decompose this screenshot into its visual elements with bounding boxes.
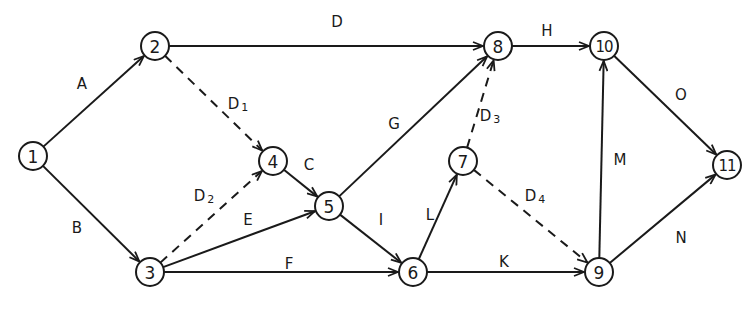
node-8: 8 [484,32,512,60]
node-label: 8 [493,37,504,57]
edge-label-7-8: D3 [480,107,501,126]
node-9: 9 [585,258,613,286]
edge-label-subscript: 1 [241,101,248,114]
node-4: 4 [259,147,287,175]
edge-label-1-3: B [72,219,82,237]
node-label: 6 [408,263,419,283]
edge-6-7 [419,175,457,260]
node-5: 5 [315,192,343,220]
node-label: 4 [268,152,279,172]
node-2: 2 [141,32,169,60]
node-label: 1 [28,147,39,167]
edge-label-10-11: O [675,86,687,104]
edge-label-1-2: A [77,75,88,93]
edge-7-9 [474,170,588,263]
edge-label-3-6: F [285,255,294,273]
node-label: 2 [150,37,161,57]
edge-label-7-9: D4 [525,187,546,206]
edge-label-subscript: 3 [493,113,500,126]
edge-label-5-8: G [388,115,400,133]
edge-label-6-7: L [426,206,435,224]
edge-1-2 [43,56,143,147]
node-label: 7 [458,152,469,172]
node-11: 11 [713,151,741,179]
edge-7-8 [467,60,494,147]
node-label: 10 [595,38,613,56]
edge-label-9-10: M [614,151,627,169]
edge-label-subscript: 4 [538,193,545,206]
node-6: 6 [399,258,427,286]
node-10: 10 [590,32,618,60]
node-label: 11 [718,157,736,175]
edge-label-4-5: C [304,156,314,174]
network-diagram: ABDD1D2CEFGID3LD4KHMON 1234567891011 [0,0,756,313]
edge-9-10 [599,61,603,258]
node-label: 5 [324,197,335,217]
edge-label-2-8: D [331,13,343,31]
node-label: 3 [145,263,156,283]
edge-label-2-4: D1 [228,95,249,114]
edge-10-11 [614,56,716,155]
edge-label-3-4: D2 [194,187,215,206]
edge-9-11 [610,175,716,263]
edge-label-5-6: I [379,211,383,229]
edge-label-6-9: K [499,253,510,271]
node-3: 3 [136,258,164,286]
edge-label-9-11: N [675,229,686,247]
edge-label-3-5: E [243,211,252,229]
network-canvas: ABDD1D2CEFGID3LD4KHMON 1234567891011 [0,0,756,313]
node-1: 1 [19,142,47,170]
node-7: 7 [449,147,477,175]
edge-1-3 [43,166,139,262]
edge-label-subscript: 2 [207,193,214,206]
edge-label-8-10: H [541,22,552,40]
node-label: 9 [594,263,605,283]
edge-5-6 [340,215,401,263]
